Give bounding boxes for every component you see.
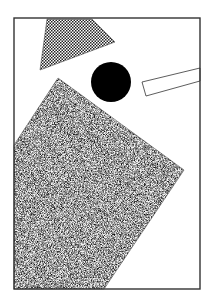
abstract-composition: [0, 0, 211, 308]
black-circle: [91, 62, 131, 102]
